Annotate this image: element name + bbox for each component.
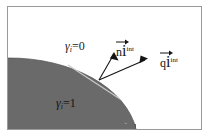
figure-frame: γi=0 γi=1 ni int qi int bbox=[7, 6, 202, 130]
gamma-value-zero: 0 bbox=[79, 39, 85, 53]
heat-flux-vector-superscript: int bbox=[170, 56, 177, 64]
normal-vector-symbol-group: ni bbox=[116, 43, 126, 59]
normal-vector-subscript: i bbox=[122, 42, 126, 59]
gamma-equals-one: = bbox=[63, 96, 70, 110]
label-gamma-zero: γi=0 bbox=[65, 40, 85, 54]
heat-flux-vector-symbol-group: qi bbox=[160, 54, 170, 70]
heat-flux-vector-subscript: i bbox=[166, 53, 170, 70]
normal-vector-superscript: int bbox=[126, 45, 133, 53]
figure-container: γi=0 γi=1 ni int qi int bbox=[0, 0, 209, 137]
label-gamma-one: γi=1 bbox=[56, 97, 76, 111]
label-normal-vector: ni int bbox=[116, 43, 134, 59]
gamma-equals-zero: = bbox=[72, 39, 79, 53]
vector-overbar-arrow-icon bbox=[160, 49, 173, 55]
vector-overbar-arrow-icon bbox=[116, 38, 129, 44]
label-heat-flux-vector: qi int bbox=[160, 54, 178, 70]
gamma-value-one: 1 bbox=[70, 96, 76, 110]
